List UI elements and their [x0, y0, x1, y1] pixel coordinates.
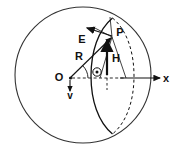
- label-velocity: v: [67, 90, 73, 101]
- label-origin: O: [55, 71, 64, 83]
- diagram-canvas: O P R E H v x: [0, 0, 173, 151]
- label-axis-x: x: [163, 72, 170, 84]
- label-hfield: H: [112, 52, 120, 64]
- outer-sphere-circle: [15, 7, 151, 143]
- label-efield: E: [78, 33, 85, 45]
- origin-dot: [69, 76, 72, 79]
- figure-container: O P R E H v x: [0, 0, 173, 151]
- angle-theta-symbol-dot: [96, 71, 99, 74]
- angle-arc: [83, 66, 89, 79]
- label-point-p: P: [116, 26, 123, 38]
- label-radius: R: [75, 50, 83, 62]
